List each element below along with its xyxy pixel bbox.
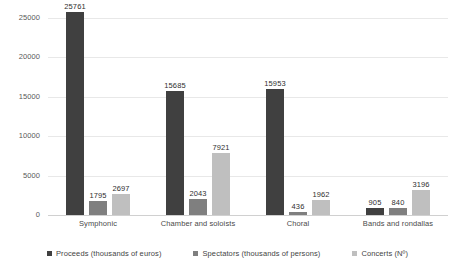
category-axis-label: Chamber and soloists (161, 219, 236, 229)
bar-slot: 2043 (189, 18, 207, 215)
bar-value-label: 905 (369, 198, 382, 207)
y-axis-tick-label: 5000 (23, 172, 40, 180)
category-axis-label: Choral (287, 219, 310, 229)
bar[interactable] (412, 190, 430, 215)
bar-group: 9058403196 (348, 18, 448, 215)
bar-slot: 25761 (66, 18, 84, 215)
bar-value-label: 7921 (212, 143, 229, 152)
legend-item[interactable]: Spectators (thousands of persons) (193, 249, 320, 258)
y-axis-tick-label: 10000 (19, 132, 40, 140)
y-axis-tick-label: 20000 (19, 53, 40, 61)
bar[interactable] (112, 194, 130, 215)
category-axis-label: Bands and rondallas (363, 219, 433, 229)
bar[interactable] (189, 199, 207, 215)
category-axis-label: Symphonic (79, 219, 117, 229)
bar-slot: 2697 (112, 18, 130, 215)
bar-value-label: 436 (292, 202, 305, 211)
chart-legend: Proceeds (thousands of euros)Spectators … (0, 246, 455, 260)
bar-value-label: 3196 (412, 180, 429, 189)
y-axis: 0500010000150002000025000 (0, 18, 44, 215)
bar-slot: 436 (289, 18, 307, 215)
bar-slot: 905 (366, 18, 384, 215)
legend-label: Concerts (Nº) (361, 249, 408, 258)
bar-slot: 1962 (312, 18, 330, 215)
legend-label: Proceeds (thousands of euros) (56, 249, 161, 258)
bar[interactable] (166, 91, 184, 215)
legend-swatch-icon (193, 251, 198, 256)
bar-group: 2576117952697 (48, 18, 148, 215)
bar-group: 1568520437921 (148, 18, 248, 215)
bar-slot: 7921 (212, 18, 230, 215)
bar-value-label: 2697 (112, 184, 129, 193)
legend-item[interactable]: Proceeds (thousands of euros) (47, 249, 161, 258)
bar[interactable] (266, 89, 284, 215)
bar-slot: 15685 (166, 18, 184, 215)
y-axis-tick-label: 25000 (19, 14, 40, 22)
bar[interactable] (289, 212, 307, 215)
bar[interactable] (389, 208, 407, 215)
bar[interactable] (89, 201, 107, 215)
bar-groups: 2576117952697156852043792115953436196290… (48, 18, 448, 215)
bar[interactable] (366, 208, 384, 215)
legend-label: Spectators (thousands of persons) (202, 249, 320, 258)
bar-slot: 1795 (89, 18, 107, 215)
bar[interactable] (212, 153, 230, 215)
axis-baseline (48, 215, 448, 216)
bar-chart: 0500010000150002000025000 25761179526971… (0, 0, 455, 267)
bar-value-label: 15953 (264, 79, 285, 88)
bar-value-label: 1962 (312, 190, 329, 199)
bar-value-label: 2043 (189, 189, 206, 198)
bar-slot: 15953 (266, 18, 284, 215)
bar-value-label: 1795 (89, 191, 106, 200)
y-axis-tick-label: 15000 (19, 93, 40, 101)
bar[interactable] (312, 200, 330, 215)
bar-slot: 3196 (412, 18, 430, 215)
legend-item[interactable]: Concerts (Nº) (352, 249, 408, 258)
bar-slot: 840 (389, 18, 407, 215)
bar-value-label: 15685 (164, 81, 185, 90)
legend-swatch-icon (352, 251, 357, 256)
bar[interactable] (66, 12, 84, 215)
bar-group: 159534361962 (248, 18, 348, 215)
plot-area: 2576117952697156852043792115953436196290… (48, 18, 448, 215)
bar-value-label: 25761 (64, 2, 85, 11)
bar-value-label: 840 (392, 198, 405, 207)
legend-swatch-icon (47, 251, 52, 256)
category-axis: SymphonicChamber and soloistsChoralBands… (48, 219, 448, 235)
y-axis-tick-label: 0 (36, 211, 40, 219)
